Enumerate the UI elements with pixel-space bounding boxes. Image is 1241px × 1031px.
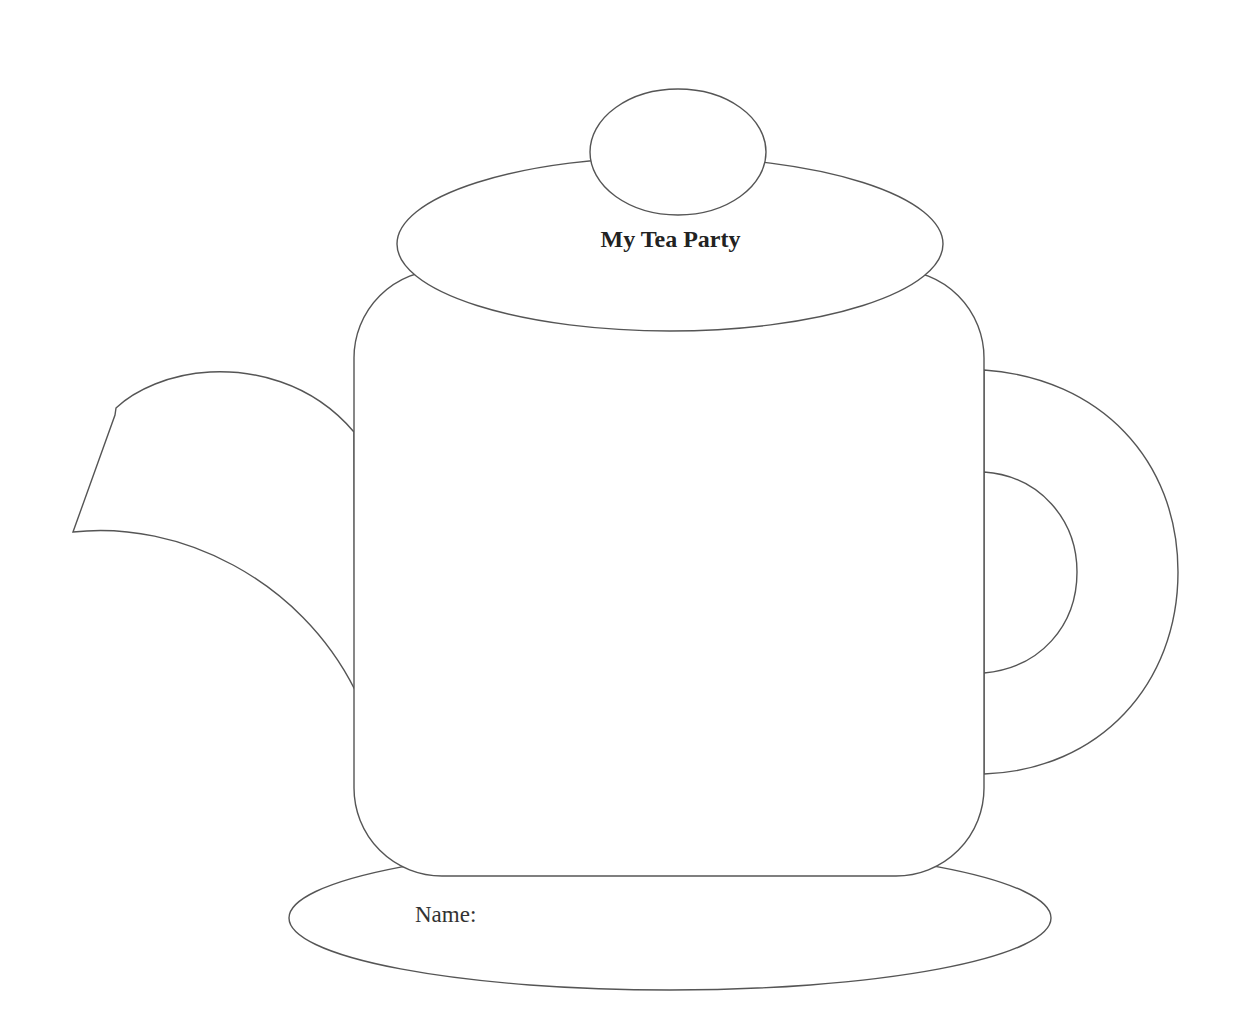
worksheet-title: My Tea Party	[0, 226, 1241, 253]
name-label: Name:	[415, 902, 476, 928]
lid-knob	[590, 89, 766, 215]
teapot-body	[354, 270, 984, 876]
teapot-drawing	[0, 0, 1241, 1031]
spout	[73, 372, 355, 690]
